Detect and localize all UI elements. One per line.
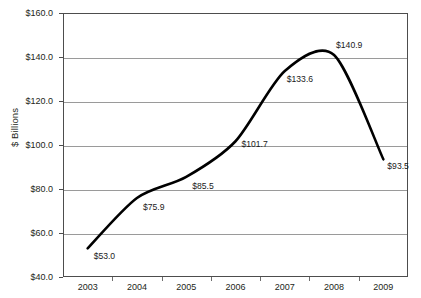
x-axis-tick-mark (112, 277, 113, 281)
y-axis-tick-mark (59, 189, 63, 190)
y-axis-tick-label: $100.0 (0, 141, 53, 150)
data-point-label: $93.5 (387, 162, 409, 171)
data-point-label: $53.0 (94, 252, 116, 261)
x-axis-tick-labels: 2003200420052006200720082009 (0, 282, 421, 296)
y-axis-tick-mark (59, 13, 63, 14)
x-axis-tick-label: 2009 (373, 282, 393, 292)
y-axis-tick-label: $140.0 (0, 53, 53, 62)
y-axis-tick-label: $120.0 (0, 97, 53, 106)
line-chart: $ Billions $160.0$140.0$120.0$100.0$80.0… (0, 0, 421, 298)
x-axis-tick-label: 2004 (127, 282, 147, 292)
y-axis-tick-mark (59, 277, 63, 278)
y-axis-tick-label: $160.0 (0, 9, 53, 18)
x-axis-tick-mark (260, 277, 261, 281)
y-axis-tick-label: $40.0 (0, 273, 53, 282)
y-axis-tick-mark (59, 57, 63, 58)
x-axis-tick-label: 2005 (176, 282, 196, 292)
gridline (64, 146, 407, 147)
x-axis-tick-label: 2006 (225, 282, 245, 292)
data-point-label: $85.5 (192, 182, 214, 191)
x-axis-tick-mark (162, 277, 163, 281)
y-axis-tick-mark (59, 145, 63, 146)
x-axis-tick-mark (359, 277, 360, 281)
x-axis-tick-mark (309, 277, 310, 281)
data-point-label: $140.9 (336, 41, 362, 50)
plot-area (63, 13, 408, 277)
y-axis-tick-labels: $160.0$140.0$120.0$100.0$80.0$60.0$40.0 (0, 0, 58, 298)
gridline (64, 234, 407, 235)
gridline (64, 190, 407, 191)
gridline (64, 58, 407, 59)
x-axis-tick-mark (211, 277, 212, 281)
gridline (64, 102, 407, 103)
x-axis-tick-label: 2008 (324, 282, 344, 292)
x-axis-tick-label: 2003 (78, 282, 98, 292)
y-axis-tick-label: $60.0 (0, 229, 53, 238)
data-point-label: $75.9 (143, 203, 165, 212)
y-axis-tick-label: $80.0 (0, 185, 53, 194)
data-point-label: $101.7 (242, 140, 268, 149)
x-axis-tick-label: 2007 (275, 282, 295, 292)
y-axis-tick-mark (59, 101, 63, 102)
y-axis-tick-mark (59, 233, 63, 234)
data-point-label: $133.6 (287, 75, 313, 84)
